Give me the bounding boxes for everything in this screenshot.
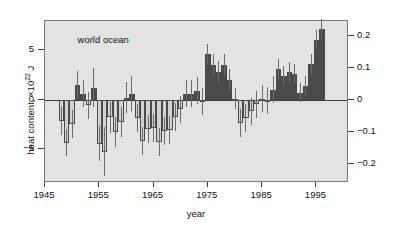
error-bar [305, 76, 306, 96]
error-bar [93, 68, 94, 107]
y-tick-label-left: −5 [0, 142, 34, 153]
x-tick-label: 1955 [76, 189, 120, 200]
error-bar [256, 91, 257, 118]
y-tick-right [348, 131, 354, 132]
y-tick-label-right: 0.2 [357, 29, 370, 40]
error-bar [180, 96, 181, 123]
plot-area: world ocean [44, 20, 348, 182]
heat-content-chart-figure: heat content, ×1022 J volume mean temper… [0, 0, 406, 227]
x-tick-label: 1995 [293, 189, 337, 200]
bar [319, 29, 324, 100]
y-tick-label-right: 0.1 [357, 61, 370, 72]
y-axis-left-title-exponent: 22 [24, 73, 31, 81]
error-bar [316, 30, 317, 50]
error-bar [66, 129, 67, 156]
y-tick-label-right: 0 [357, 93, 362, 104]
error-bar [121, 107, 122, 136]
x-tick-label: 1985 [239, 189, 283, 200]
error-bar [115, 117, 116, 146]
error-bar [251, 98, 252, 125]
error-bar [159, 128, 160, 155]
x-tick-label: 1965 [131, 189, 175, 200]
error-bar [88, 92, 89, 119]
y-tick-right [348, 67, 354, 68]
error-bar [191, 80, 192, 107]
error-bar [218, 61, 219, 83]
error-bar [197, 77, 198, 104]
error-bar [224, 54, 225, 76]
y-tick-label-left: 5 [0, 43, 34, 54]
error-bar [300, 83, 301, 103]
error-bar [311, 54, 312, 74]
error-bar [104, 127, 105, 176]
error-bar [289, 62, 290, 82]
error-bar [72, 110, 73, 137]
error-bar [267, 87, 268, 114]
y-tick-left [38, 49, 44, 50]
y-tick-right [348, 163, 354, 164]
error-bar [142, 127, 143, 154]
error-bar [262, 85, 263, 112]
x-tick [44, 182, 45, 187]
error-bar [169, 116, 170, 143]
y-tick-left [38, 148, 44, 149]
series-annotation-label: world ocean [78, 34, 129, 45]
x-tick [315, 182, 316, 187]
error-bar [186, 80, 187, 107]
y-tick-label-left: 0 [0, 93, 34, 104]
error-bar [77, 71, 78, 98]
error-bar [137, 104, 138, 131]
error-bar [294, 64, 295, 84]
error-bar [83, 80, 84, 107]
y-tick-right [348, 35, 354, 36]
x-tick [153, 182, 154, 187]
x-tick [207, 182, 208, 187]
y-tick-label-right: −0.1 [357, 125, 376, 136]
error-bar [202, 88, 203, 115]
error-bar [240, 109, 241, 136]
error-bar [273, 76, 274, 103]
error-bar [61, 107, 62, 134]
error-bar [321, 19, 322, 39]
error-bar [283, 66, 284, 86]
error-bar [278, 59, 279, 79]
error-bar [131, 76, 132, 111]
error-bar [99, 126, 100, 161]
error-bar [245, 104, 246, 131]
x-tick-label: 1945 [22, 189, 66, 200]
x-axis-title: year [44, 208, 348, 219]
y-tick-label-right: −0.2 [357, 157, 376, 168]
y-tick-left [38, 99, 44, 100]
error-bar [213, 54, 214, 76]
error-bar [175, 103, 176, 130]
error-bar [164, 117, 165, 144]
error-bar [148, 115, 149, 142]
error-bar [229, 69, 230, 91]
error-bar [153, 114, 154, 141]
x-tick-label: 1975 [185, 189, 229, 200]
error-bar [126, 82, 127, 113]
error-bar [235, 88, 236, 110]
x-tick [98, 182, 99, 187]
y-axis-left-title-post: J [25, 66, 36, 73]
error-bar [110, 102, 111, 133]
error-bar [207, 44, 208, 66]
x-tick [261, 182, 262, 187]
y-tick-right [348, 99, 354, 100]
